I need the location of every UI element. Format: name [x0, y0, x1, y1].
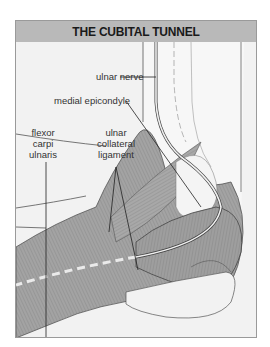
figure-title: THE CUBITAL TUNNEL: [72, 25, 199, 39]
label-medial-epicondyle: medial epicondyle: [54, 95, 130, 106]
illustration-frame: THE CUBITAL TUNNEL: [15, 20, 257, 338]
label-flexor-carpi-ulnaris: flexor carpi ulnaris: [22, 127, 64, 160]
label-ulnar-nerve: ulnar nerve: [96, 71, 144, 82]
label-ulnar-collateral-ligament: ulnar collateral ligament: [88, 127, 144, 160]
elbow-anatomy-illustration: [16, 42, 256, 338]
title-bar: THE CUBITAL TUNNEL: [16, 21, 256, 42]
